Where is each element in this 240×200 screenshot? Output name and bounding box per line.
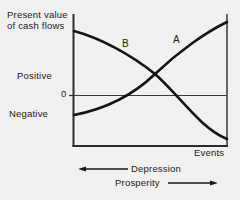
depression-label: Depression [131,163,181,174]
y-axis-title: Present value of cash flows [7,9,68,31]
curve-a-line [74,22,227,115]
y-tick-label-zero: 0 [61,88,66,99]
chart-figure: Present value of cash flows Positive 0 N… [0,0,240,200]
curve-a-label: A [173,34,180,45]
prosperity-label: Prosperity [115,177,160,188]
y-tick-label-negative: Negative [9,108,48,119]
prosperity-arrow [168,180,218,185]
y-axis-title-line1: Present value [7,9,68,20]
curve-b-label: B [122,38,129,49]
depression-arrow [78,166,128,171]
curve-b-line [74,31,227,139]
y-axis-title-line2: of cash flows [7,20,68,31]
x-axis-label: Events [194,147,224,158]
y-tick-label-positive: Positive [17,70,52,81]
